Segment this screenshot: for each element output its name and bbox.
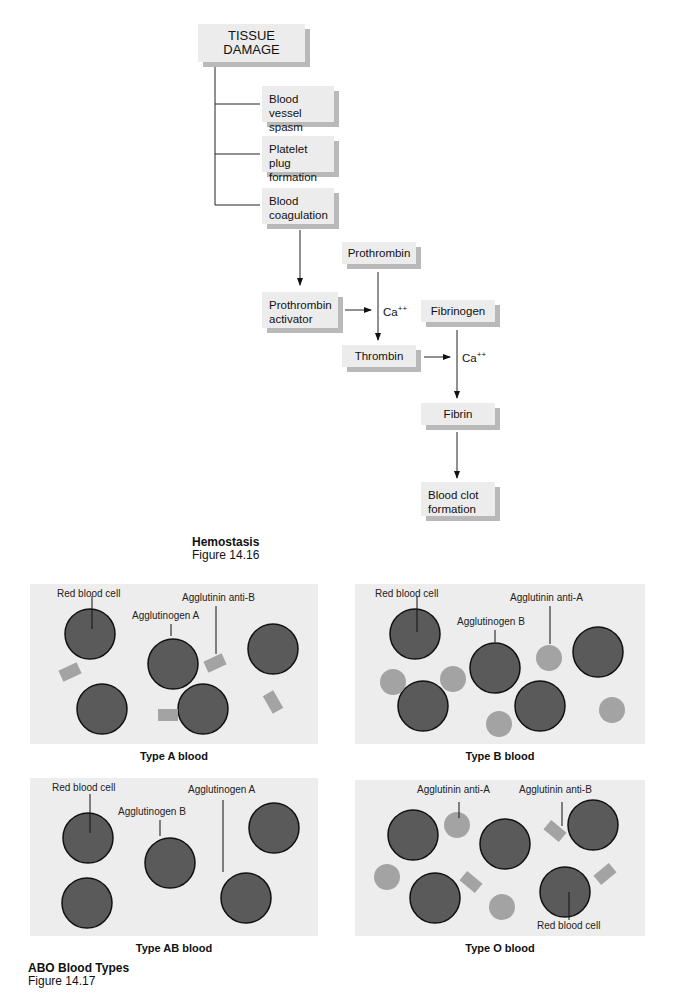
box-prothrombin: Prothrombin — [342, 242, 416, 264]
box-blood-clot: Blood clot formation — [421, 482, 495, 516]
label-agglutinogen-b: Agglutinogen B — [118, 806, 186, 817]
box-label: Blood clot formation — [428, 489, 479, 515]
box-platelet-plug: Platelet plug formation — [262, 136, 334, 172]
label-agglutinin-anti-a: Agglutinin anti-A — [510, 592, 583, 603]
type-ab-illustration — [30, 778, 318, 936]
box-vessel-spasm: Blood vessel spasm — [262, 86, 334, 122]
box-thrombin: Thrombin — [342, 345, 416, 367]
box-fibrin: Fibrin — [421, 403, 495, 425]
box-label: Prothrombin activator — [269, 299, 332, 325]
label-agglutinogen-a: Agglutinogen A — [132, 610, 199, 621]
label-red-blood-cell: Red blood cell — [52, 782, 115, 793]
box-label: Fibrinogen — [431, 304, 485, 318]
box-label: Prothrombin — [348, 246, 411, 260]
type-a-illustration — [30, 584, 318, 744]
box-coagulation: Blood coagulation — [262, 188, 334, 224]
cofactor-charge: ++ — [477, 350, 486, 359]
label-red-blood-cell: Red blood cell — [375, 588, 438, 599]
panel-title-type-a: Type A blood — [30, 750, 318, 762]
box-prothrombin-activator: Prothrombin activator — [262, 292, 338, 328]
caption-figure: Figure 14.16 — [192, 548, 259, 562]
cofactor-charge: ++ — [398, 304, 407, 313]
box-label: TISSUE DAMAGE — [205, 29, 298, 57]
box-tissue-damage: TISSUE DAMAGE — [198, 24, 305, 62]
label-red-blood-cell: Red blood cell — [57, 588, 120, 599]
box-label: Platelet plug formation — [269, 143, 317, 183]
panel-type-a: Red blood cell Agglutinogen A Agglutinin… — [30, 584, 318, 744]
box-label: Blood vessel spasm — [269, 93, 303, 133]
label-agglutinin-anti-b: Agglutinin anti-B — [519, 784, 592, 795]
caption-figure: Figure 14.17 — [28, 974, 95, 988]
type-o-illustration — [355, 780, 645, 936]
panel-title-type-ab: Type AB blood — [30, 942, 318, 954]
flowchart-connectors — [0, 0, 698, 530]
label-agglutinin-anti-a: Agglutinin anti-A — [417, 784, 490, 795]
cofactor-text: Ca — [462, 352, 477, 364]
calcium-label: Ca++ — [383, 304, 407, 318]
label-agglutinin-anti-b: Agglutinin anti-B — [182, 592, 255, 603]
type-b-illustration — [355, 584, 645, 744]
abo-caption: ABO Blood Types Figure 14.17 — [28, 962, 129, 988]
cofactor-text: Ca — [383, 306, 398, 318]
panel-type-o: Agglutinin anti-A Agglutinin anti-B Red … — [355, 780, 645, 936]
box-label: Thrombin — [355, 349, 404, 363]
calcium-label: Ca++ — [462, 350, 486, 364]
label-agglutinogen-a: Agglutinogen A — [188, 784, 255, 795]
label-agglutinogen-b: Agglutinogen B — [457, 616, 525, 627]
box-label: Fibrin — [444, 407, 473, 421]
label-red-blood-cell: Red blood cell — [537, 920, 600, 931]
box-label: Blood coagulation — [269, 195, 328, 221]
hemostasis-caption: Hemostasis Figure 14.16 — [192, 536, 259, 562]
panel-title-type-o: Type O blood — [355, 942, 645, 954]
panel-title-type-b: Type B blood — [355, 750, 645, 762]
panel-type-b: Red blood cell Agglutinogen B Agglutinin… — [355, 584, 645, 744]
panel-type-ab: Red blood cell Agglutinogen B Agglutinog… — [30, 778, 318, 936]
box-fibrinogen: Fibrinogen — [421, 300, 495, 322]
